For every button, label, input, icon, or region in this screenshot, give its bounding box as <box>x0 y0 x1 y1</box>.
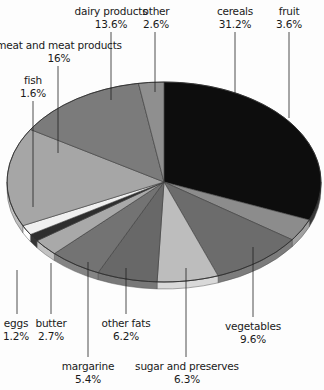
label-fruit: fruit3.6% <box>276 5 302 31</box>
label-name: other <box>143 5 170 18</box>
label-name: fruit <box>276 5 302 18</box>
label-percent: 13.6% <box>75 18 148 31</box>
label-other-fats: other fats6.2% <box>101 317 150 343</box>
label-name: vegetables <box>225 320 281 333</box>
label-meat-and-meat-products: meat and meat products16% <box>0 39 122 65</box>
label-percent: 2.6% <box>143 18 170 31</box>
label-name: cereals <box>217 5 253 18</box>
pie-chart: cereals31.2%fruit3.6%dairy products13.6%… <box>0 0 324 390</box>
label-name: fish <box>20 74 46 87</box>
label-vegetables: vegetables9.6% <box>225 320 281 346</box>
label-percent: 1.2% <box>3 330 29 343</box>
label-name: meat and meat products <box>0 39 122 52</box>
label-eggs: eggs1.2% <box>3 317 29 343</box>
label-percent: 3.6% <box>276 18 302 31</box>
label-margarine: margarine5.4% <box>62 360 114 386</box>
label-cereals: cereals31.2% <box>217 5 253 31</box>
label-fish: fish1.6% <box>20 74 46 100</box>
label-name: butter <box>35 317 66 330</box>
label-percent: 31.2% <box>217 18 253 31</box>
label-butter: butter2.7% <box>35 317 66 343</box>
label-dairy-products: dairy products13.6% <box>75 5 148 31</box>
label-sugar-and-preserves: sugar and preserves6.3% <box>135 360 239 386</box>
label-percent: 9.6% <box>225 333 281 346</box>
label-percent: 16% <box>0 52 122 65</box>
label-percent: 1.6% <box>20 87 46 100</box>
label-percent: 6.3% <box>135 373 239 386</box>
label-name: eggs <box>3 317 29 330</box>
label-percent: 6.2% <box>101 330 150 343</box>
label-percent: 2.7% <box>35 330 66 343</box>
label-other: other2.6% <box>143 5 170 31</box>
label-name: sugar and preserves <box>135 360 239 373</box>
label-name: other fats <box>101 317 150 330</box>
pie-slices <box>7 82 321 282</box>
label-percent: 5.4% <box>62 373 114 386</box>
label-name: dairy products <box>75 5 148 18</box>
label-name: margarine <box>62 360 114 373</box>
